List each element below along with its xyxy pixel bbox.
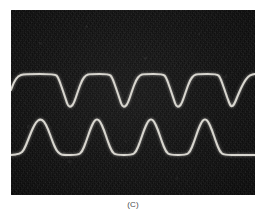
waveform-trace-layer (11, 10, 255, 195)
figure-container: (C) (0, 0, 266, 223)
oscilloscope-photo-panel (11, 10, 255, 195)
lower-waveform-trace (11, 120, 255, 156)
figure-caption: (C) (0, 200, 266, 209)
upper-waveform-trace (11, 74, 255, 107)
